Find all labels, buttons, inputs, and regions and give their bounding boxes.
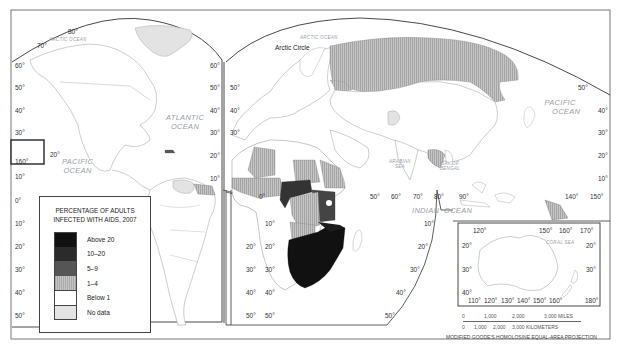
legend-title-line1: PERCENTAGE OF ADULTS xyxy=(40,207,150,216)
scale-miles-1000: 1,000 xyxy=(484,313,497,319)
lat-af-right-40: 40° xyxy=(265,289,275,296)
lat-af-right-20: 20° xyxy=(265,243,275,250)
lat-am-30: 30° xyxy=(210,129,220,136)
arabian-line2: SEA xyxy=(389,164,411,169)
lat-in-10: 10° xyxy=(424,220,434,227)
au-bot-150: 150° xyxy=(533,297,546,304)
au-lat-left-20: 20° xyxy=(462,242,472,249)
legend: PERCENTAGE OF ADULTS INFECTED WITH AIDS,… xyxy=(39,196,151,333)
legend-title-line2: INFECTED WITH AIDS, 2007 xyxy=(40,216,150,225)
arctic-circle-label: Arctic Circle xyxy=(275,44,310,51)
legend-item-5-9: 5–9 xyxy=(54,261,114,276)
pacific-ocean-label-left: PACIFIC OCEAN xyxy=(62,157,93,175)
legend-item-no-data: No data xyxy=(54,305,114,320)
lat-left-40: 40° xyxy=(15,107,25,114)
atlantic-line1: ATLANTIC xyxy=(166,113,204,122)
scale-miles-2000: 2,000 xyxy=(512,313,525,319)
north-america xyxy=(30,44,157,171)
indian-ocean-label-2: OCEAN xyxy=(444,206,472,215)
atlantic-line2: OCEAN xyxy=(166,122,204,131)
lon-90: 90° xyxy=(459,193,469,200)
lat-am-60: 60° xyxy=(210,62,220,69)
scale-bar: 0 1,000 2,000 3,000 MILES 0 1,000 2,000 … xyxy=(462,313,592,333)
legend-label-10-20: 10–20 xyxy=(87,250,105,257)
lon-150: 150° xyxy=(590,193,603,200)
lat-eu-40: 40° xyxy=(230,107,240,114)
africa-lobe-outline xyxy=(226,190,231,325)
pacific-left-line2: OCEAN xyxy=(62,166,93,175)
lat-eu-50: 50° xyxy=(230,84,240,91)
legend-swatch-10-20 xyxy=(54,247,77,262)
lon-70: 70° xyxy=(413,193,423,200)
au-bot-130: 130° xyxy=(501,297,514,304)
au-lat-left-30: 30° xyxy=(462,266,472,273)
lat-pr-50: 50° xyxy=(578,84,588,91)
bengal-line2: BENGAL xyxy=(440,166,460,171)
lat-left-30s: 30° xyxy=(15,266,25,273)
lon-140: 140° xyxy=(565,193,578,200)
lon-70-top: 70° xyxy=(37,42,47,49)
pacific-right-line2: OCEAN xyxy=(552,107,580,116)
legend-item-1-4: 1–4 xyxy=(54,276,114,291)
au-lat-right-30: 30° xyxy=(586,266,596,273)
au-bot-140: 140° xyxy=(517,297,530,304)
lat-am-40: 40° xyxy=(210,107,220,114)
lat-in-30: 30° xyxy=(410,266,420,273)
lat-pr-10: 10° xyxy=(598,175,608,182)
au-bot-120: 120° xyxy=(484,297,497,304)
scale-km-0: 0 xyxy=(462,324,465,330)
projection-label: MODIFIED GOODE'S HOMOLOSINE EQUAL-AREA P… xyxy=(446,334,597,340)
lat-am-10: 10° xyxy=(210,175,220,182)
lat-af-left-50: 50° xyxy=(246,312,256,319)
lat-left-0: 0° xyxy=(15,197,21,204)
lat-af-right-50: 50° xyxy=(265,312,275,319)
legend-rows: Above 20 10–20 5–9 1–4 Below 1 No data xyxy=(54,232,114,320)
legend-label-below-1: Below 1 xyxy=(87,294,110,301)
lon-80: 80° xyxy=(434,193,444,200)
lat-am-50: 50° xyxy=(210,84,220,91)
lat-eu-30: 30° xyxy=(230,129,240,136)
au-top-150: 150° xyxy=(539,227,552,234)
lat-pr-20: 20° xyxy=(598,152,608,159)
scale-km-1000: 1,000 xyxy=(474,324,487,330)
lat-hawaii-20: 20° xyxy=(50,151,60,158)
lat-left-10s: 10° xyxy=(15,220,25,227)
legend-swatch-below-1 xyxy=(54,290,77,305)
au-lat-left-40: 40° xyxy=(462,289,472,296)
lat-in-50: 50° xyxy=(385,312,395,319)
lat-left-10n: 10° xyxy=(15,173,25,180)
au-lat-right-20: 20° xyxy=(586,242,596,249)
lat-af-left-40: 40° xyxy=(246,289,256,296)
south-america xyxy=(148,178,216,325)
arctic-ocean-label-left: ARCTIC OCEAN xyxy=(49,37,87,42)
legend-label-no-data: No data xyxy=(87,309,110,316)
scale-miles-0: 0 xyxy=(462,313,465,319)
pacific-ocean-label-right: PACIFIC OCEAN xyxy=(540,98,580,116)
legend-swatch-1-4 xyxy=(54,276,77,291)
indian-ocean-label-1: INDIAN xyxy=(412,206,439,215)
au-top-170: 170° xyxy=(580,227,593,234)
pacific-right-line1: PACIFIC xyxy=(540,98,580,107)
lat-in-20: 20° xyxy=(418,243,428,250)
lat-left-50: 50° xyxy=(15,84,25,91)
au-bot-180: 180° xyxy=(585,297,598,304)
scale-line xyxy=(463,321,581,322)
lat-left-50s: 50° xyxy=(15,312,25,319)
lat-left-30: 30° xyxy=(15,129,25,136)
legend-title: PERCENTAGE OF ADULTS INFECTED WITH AIDS,… xyxy=(40,207,150,224)
au-top-160: 160° xyxy=(559,227,572,234)
lat-left-20s: 20° xyxy=(15,243,25,250)
legend-item-below-1: Below 1 xyxy=(54,290,114,305)
legend-item-10-20: 10–20 xyxy=(54,247,114,262)
lat-left-40s: 40° xyxy=(15,289,25,296)
lon-hawaii-160: 160° xyxy=(15,158,28,165)
arabian-sea-label: ARABIAN SEA xyxy=(389,159,411,169)
lon-0: 0° xyxy=(259,193,265,200)
scale-km-2000: 2,000 xyxy=(493,324,506,330)
lat-pr-40: 40° xyxy=(598,107,608,114)
lat-af-right-30: 30° xyxy=(265,266,275,273)
legend-label-above-20: Above 20 xyxy=(87,236,114,243)
legend-label-5-9: 5–9 xyxy=(87,265,98,272)
pacific-left-line1: PACIFIC xyxy=(62,157,93,166)
lat-left-60: 60° xyxy=(15,62,25,69)
